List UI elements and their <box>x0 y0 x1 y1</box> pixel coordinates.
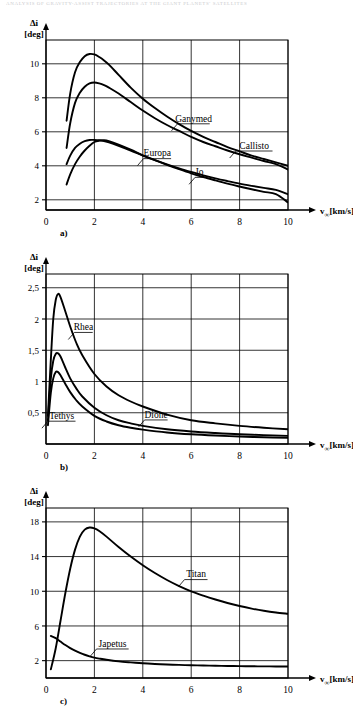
x-tick-label: 2 <box>92 217 97 227</box>
x-tick-label: 10 <box>283 217 293 227</box>
panel-caption-a: a) <box>60 228 68 238</box>
figure-page: ANALYSIS OF GRAVITY-ASSIST TRAJECTORIES … <box>0 0 353 725</box>
x-tick-label: 0 <box>44 685 49 695</box>
x-axis-label: v∞[km/s] <box>320 206 353 219</box>
series-label-tethys: Tethys <box>49 411 74 421</box>
y-tick-label: 6 <box>35 127 40 137</box>
y-tick-label: 0,5 <box>28 408 40 418</box>
chart-svg-c: 261014180246810Δi[deg]v∞[km/s]TitanJapet… <box>0 482 353 716</box>
series-label-titan: Titan <box>186 569 206 579</box>
chart-b: 0,511,522,50246810Δi[deg]v∞[km/s]RheaDio… <box>0 248 353 482</box>
y-axis-symbol: Δi <box>30 252 39 262</box>
x-tick-label: 2 <box>92 451 97 461</box>
series-leader-line <box>179 580 185 587</box>
x-tick-label: 6 <box>189 685 194 695</box>
y-axis-symbol: Δi <box>30 486 39 496</box>
y-tick-label: 10 <box>30 59 40 69</box>
x-tick-label: 2 <box>92 685 97 695</box>
y-tick-label: 14 <box>30 552 40 562</box>
x-tick-label: 6 <box>189 217 194 227</box>
chart-svg-a: 2468100246810Δi[deg]v∞[km/s]GanymedCalli… <box>0 14 353 248</box>
x-axis-label: v∞[km/s] <box>320 440 353 453</box>
y-tick-label: 10 <box>30 587 40 597</box>
x-tick-label: 8 <box>237 685 242 695</box>
y-axis-arrow <box>43 491 49 498</box>
y-axis-arrow <box>43 257 49 264</box>
x-tick-label: 10 <box>283 685 293 695</box>
figure-panel-b: 0,511,522,50246810Δi[deg]v∞[km/s]RheaDio… <box>0 248 353 482</box>
y-tick-label: 4 <box>35 161 40 171</box>
x-tick-label: 8 <box>237 451 242 461</box>
y-tick-label: 18 <box>30 517 40 527</box>
x-tick-label: 0 <box>44 217 49 227</box>
series-label-rhea: Rhea <box>74 322 94 332</box>
x-tick-label: 6 <box>189 451 194 461</box>
series-label-europa: Europa <box>144 148 172 158</box>
x-tick-label: 10 <box>283 451 293 461</box>
x-axis-arrow <box>309 675 316 681</box>
curve-dione <box>48 353 288 436</box>
series-leader-line <box>91 649 97 656</box>
x-tick-label: 4 <box>140 217 145 227</box>
y-tick-label: 1,5 <box>28 346 40 356</box>
x-tick-label: 4 <box>140 451 145 461</box>
panel-caption-b: b) <box>60 462 68 472</box>
y-tick-label: 6 <box>35 622 40 632</box>
panel-caption-c: c) <box>60 696 67 706</box>
y-tick-label: 2 <box>35 656 40 666</box>
chart-a: 2468100246810Δi[deg]v∞[km/s]GanymedCalli… <box>0 14 353 248</box>
x-axis-arrow <box>309 207 316 213</box>
x-tick-label: 8 <box>237 217 242 227</box>
series-label-ganymed: Ganymed <box>175 114 212 124</box>
y-axis-arrow <box>43 23 49 30</box>
chart-svg-b: 0,511,522,50246810Δi[deg]v∞[km/s]RheaDio… <box>0 248 353 482</box>
y-axis-unit: [deg] <box>24 263 44 273</box>
figure-panel-c: 261014180246810Δi[deg]v∞[km/s]TitanJapet… <box>0 482 353 718</box>
x-axis-arrow <box>309 441 316 447</box>
y-tick-label: 2,5 <box>28 283 40 293</box>
curve-japetus <box>51 636 288 667</box>
series-label-callisto: Callisto <box>239 141 269 151</box>
y-axis-unit: [deg] <box>24 497 44 507</box>
figure-panel-a: 2468100246810Δi[deg]v∞[km/s]GanymedCalli… <box>0 14 353 248</box>
running-head: ANALYSIS OF GRAVITY-ASSIST TRAJECTORIES … <box>6 1 347 5</box>
curve-titan <box>51 527 288 669</box>
series-leader-line <box>42 421 48 428</box>
series-label-dione: Dione <box>145 410 168 420</box>
series-leader-line <box>189 177 195 184</box>
y-tick-label: 2 <box>35 315 40 325</box>
chart-c: 261014180246810Δi[deg]v∞[km/s]TitanJapet… <box>0 482 353 718</box>
y-tick-label: 1 <box>35 377 40 387</box>
y-axis-unit: [deg] <box>24 29 44 39</box>
y-axis-symbol: Δi <box>30 18 39 28</box>
y-tick-label: 8 <box>35 93 40 103</box>
y-tick-label: 2 <box>35 195 40 205</box>
x-axis-label: v∞[km/s] <box>320 674 353 687</box>
series-label-io: Io <box>196 167 204 177</box>
x-tick-label: 4 <box>140 685 145 695</box>
x-tick-label: 0 <box>44 451 49 461</box>
series-label-japetus: Japetus <box>99 639 127 649</box>
